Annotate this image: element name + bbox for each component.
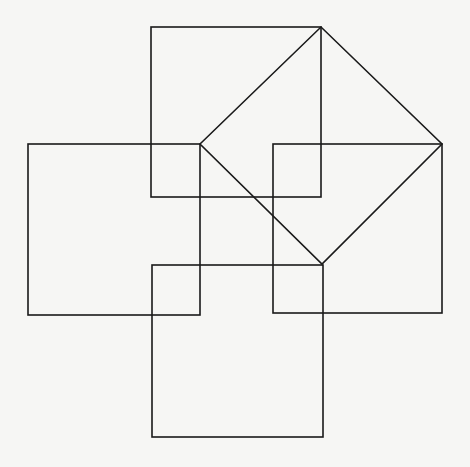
bottom-square bbox=[152, 265, 323, 437]
geometric-diagram bbox=[0, 0, 470, 467]
left-square bbox=[28, 144, 200, 315]
